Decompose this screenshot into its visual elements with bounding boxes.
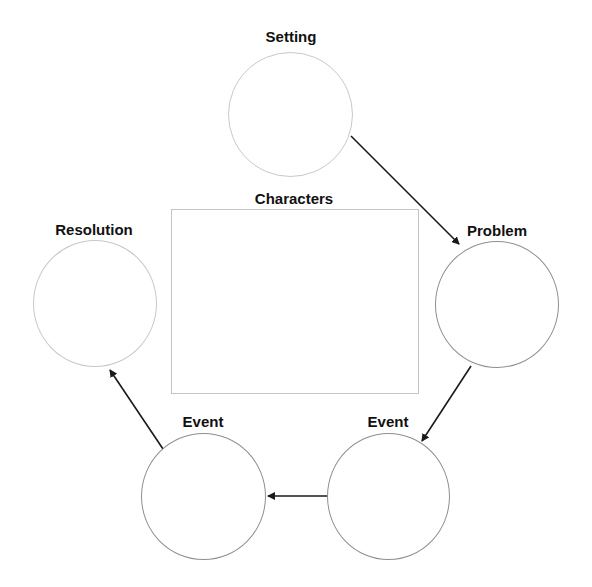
problem-label: Problem (467, 222, 527, 240)
resolution-label: Resolution (55, 221, 133, 239)
arrow-event-to-resolution (110, 370, 163, 449)
problem-circle[interactable] (435, 241, 559, 368)
setting-circle[interactable] (228, 52, 353, 177)
event-right-label: Event (368, 413, 409, 431)
characters-box[interactable] (171, 209, 419, 394)
event-left-label: Event (183, 413, 224, 431)
resolution-circle[interactable] (33, 240, 157, 367)
characters-label: Characters (255, 190, 333, 208)
story-map-diagram: Setting Characters Problem Resolution Ev… (0, 0, 592, 587)
setting-label: Setting (266, 28, 317, 46)
arrow-problem-to-event (422, 366, 471, 441)
event-left-circle[interactable] (141, 433, 266, 560)
event-right-circle[interactable] (327, 433, 450, 560)
